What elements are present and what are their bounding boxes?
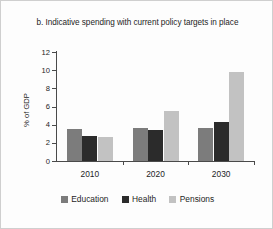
x-axis-line bbox=[56, 161, 255, 162]
chart-figure: b. Indicative spending with current poli… bbox=[0, 0, 273, 229]
y-tick-mark bbox=[52, 70, 56, 71]
x-tick-mark bbox=[188, 161, 189, 165]
legend-label: Health bbox=[132, 194, 156, 204]
y-tick-mark bbox=[52, 143, 56, 144]
bar-education-2030 bbox=[198, 128, 213, 161]
bar-health-2010 bbox=[82, 136, 97, 161]
chart-title: b. Indicative spending with current poli… bbox=[1, 18, 273, 27]
legend-item-health[interactable]: Health bbox=[122, 194, 157, 204]
y-tick-mark bbox=[52, 161, 56, 162]
plot-area bbox=[57, 52, 254, 161]
y-tick-label: 10 bbox=[29, 70, 50, 71]
y-tick-label: 0 bbox=[29, 161, 50, 162]
bar-pensions-2030 bbox=[229, 72, 244, 161]
bar-health-2030 bbox=[214, 122, 229, 161]
y-tick-label: 8 bbox=[29, 88, 50, 89]
y-tick-mark bbox=[52, 107, 56, 108]
legend-item-education[interactable]: Education bbox=[61, 194, 109, 204]
legend-swatch-icon bbox=[61, 196, 68, 203]
x-tick-label-2010: 2010 bbox=[66, 169, 114, 179]
y-axis-label: % of GDP bbox=[22, 87, 31, 133]
chart-legend: EducationHealthPensions bbox=[1, 194, 273, 204]
x-tick-label-2030: 2030 bbox=[197, 169, 245, 179]
bar-pensions-2020 bbox=[164, 111, 179, 161]
legend-item-pensions[interactable]: Pensions bbox=[169, 194, 214, 204]
y-tick-label: 12 bbox=[29, 52, 50, 53]
legend-label: Pensions bbox=[180, 194, 214, 204]
x-tick-mark bbox=[123, 161, 124, 165]
legend-label: Education bbox=[71, 194, 108, 204]
legend-swatch-icon bbox=[122, 196, 129, 203]
bar-pensions-2010 bbox=[98, 137, 113, 161]
y-tick-label: 4 bbox=[29, 124, 50, 125]
bar-health-2020 bbox=[148, 130, 163, 161]
y-tick-mark bbox=[52, 52, 56, 53]
legend-swatch-icon bbox=[169, 196, 176, 203]
y-tick-mark bbox=[52, 88, 56, 89]
bar-education-2020 bbox=[133, 128, 148, 161]
x-tick-label-2020: 2020 bbox=[132, 169, 180, 179]
y-tick-label: 6 bbox=[29, 106, 50, 107]
y-tick-label: 2 bbox=[29, 142, 50, 143]
x-tick-mark bbox=[254, 161, 255, 165]
y-tick-mark bbox=[52, 125, 56, 126]
bar-education-2010 bbox=[67, 129, 82, 161]
